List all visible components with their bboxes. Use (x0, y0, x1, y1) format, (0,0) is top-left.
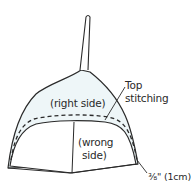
top-stitching-label-line2: stitching (125, 92, 169, 104)
wrong-side-label-line2: side) (82, 149, 107, 161)
right-side-label: (right side) (50, 97, 105, 109)
seam-allowance-leader (137, 160, 147, 173)
top-stitching-label-line1: Top (125, 79, 142, 91)
stem-loop (80, 16, 90, 71)
seam-allowance-label: ⅜" (1cm) (148, 171, 191, 182)
wrong-side-label-line1: (wrong (78, 136, 113, 148)
